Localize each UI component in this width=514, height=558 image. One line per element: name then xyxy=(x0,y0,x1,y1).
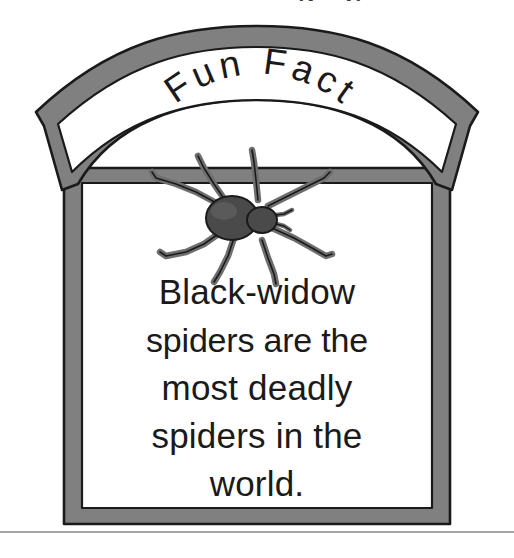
cropped-text-fragment-left: g xyxy=(298,0,315,1)
cropped-text-fragment-right: p xyxy=(345,0,362,1)
fun-fact-sign-graphic: Fun Fact xyxy=(0,0,514,558)
spider-cephalothorax xyxy=(247,207,277,233)
illustration-canvas: Fun Fact xyxy=(0,0,514,558)
